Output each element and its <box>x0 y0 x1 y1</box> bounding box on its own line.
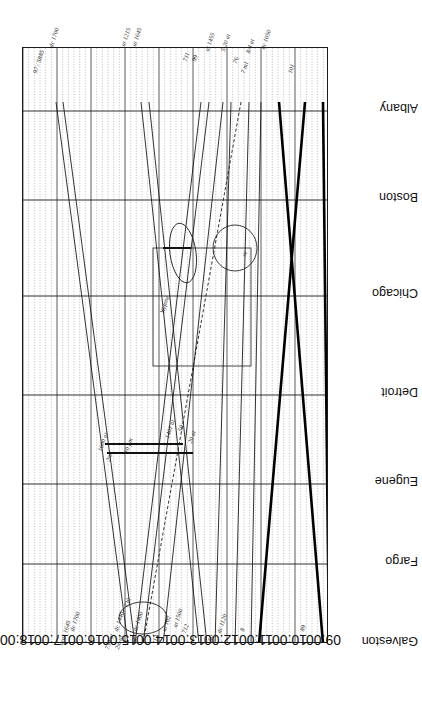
station-label-detroit: Detroit <box>332 385 418 399</box>
time-label-1800: 18:00 <box>0 632 35 648</box>
string-diagram-plot <box>22 47 328 643</box>
ann-dc1700: dc 1700 <box>47 27 60 49</box>
string-diagram-svg <box>23 48 328 643</box>
station-label-galveston: Galveston <box>332 634 418 648</box>
time-label-1300: 13:00 <box>170 632 205 648</box>
train-line <box>251 102 261 643</box>
time-label-1000: 10:00 <box>272 632 307 648</box>
station-label-chicago: Chicago <box>332 286 418 300</box>
train-line <box>235 102 249 643</box>
train-line <box>259 102 305 643</box>
station-label-albany: Albany <box>332 101 418 115</box>
conflict-markers <box>119 221 257 634</box>
time-label-1100: 11:00 <box>239 632 273 648</box>
train-line <box>141 102 199 643</box>
time-label-0900: 09:00 <box>306 632 341 648</box>
ann-at1645: at 1645 <box>130 27 143 48</box>
train-line <box>56 102 128 643</box>
station-label-eugene: Eugene <box>332 474 418 488</box>
train-line <box>279 102 323 643</box>
minor-gridlines <box>29 48 324 643</box>
chart-page: AlbanyBostonChicagoDetroitEugeneFargoGal… <box>0 0 422 722</box>
time-label-1600: 16:00 <box>68 632 103 648</box>
train-line <box>135 102 201 643</box>
train-line <box>215 102 231 643</box>
station-label-boston: Boston <box>332 190 418 204</box>
train-line <box>323 102 328 643</box>
station-label-fargo: Fargo <box>332 554 418 568</box>
